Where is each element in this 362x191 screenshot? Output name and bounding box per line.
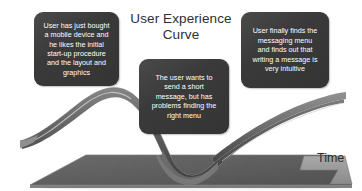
diagram-canvas: User Experience Curve User has just boug… (0, 0, 362, 191)
ground-shadow (40, 186, 340, 191)
callout-text: User has just bought a mobile device and… (39, 21, 114, 77)
callout-box-first-impression: User has just bought a mobile device and… (34, 12, 119, 86)
callout-box-frustration: The user wants to send a short message, … (139, 59, 229, 134)
callout-text: User finally finds the messaging menu an… (246, 26, 324, 73)
callout-box-resolution: User finally finds the messaging menu an… (241, 12, 329, 88)
chart-title: User Experience Curve (122, 11, 240, 42)
x-axis-label: Time (317, 151, 344, 165)
callout-text: The user wants to send a short message, … (144, 73, 224, 120)
